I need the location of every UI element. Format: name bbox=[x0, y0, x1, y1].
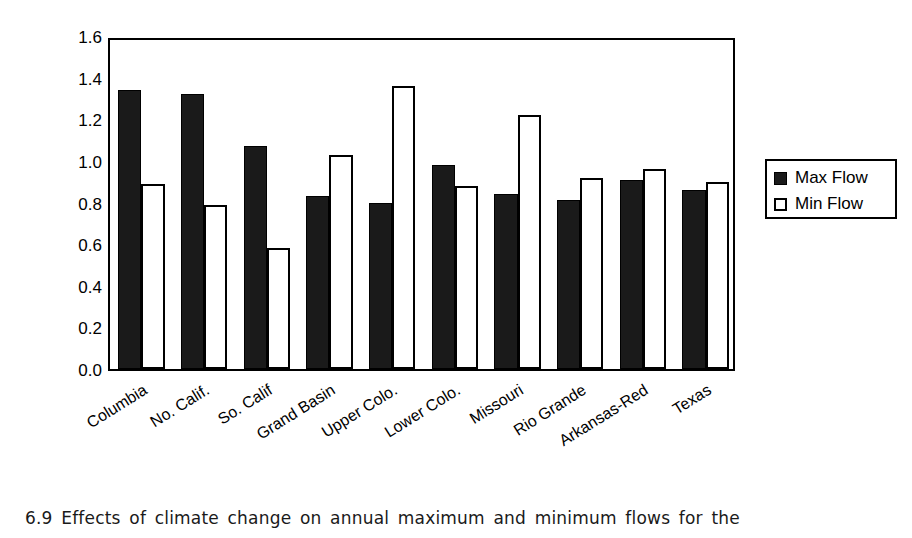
bar-min-flow[interactable] bbox=[643, 169, 666, 369]
bar-max-flow[interactable] bbox=[244, 146, 267, 369]
y-axis-tick-labels: 1.61.41.21.00.80.60.40.20.0 bbox=[48, 28, 102, 382]
bar-max-flow[interactable] bbox=[181, 94, 204, 369]
legend-entry-max-flow[interactable]: Max Flow bbox=[774, 165, 895, 191]
bar-max-flow[interactable] bbox=[682, 190, 705, 369]
bar-max-flow[interactable] bbox=[494, 194, 517, 369]
bar-group bbox=[173, 40, 236, 369]
bar-min-flow[interactable] bbox=[392, 86, 415, 369]
bar-group bbox=[298, 40, 361, 369]
y-tick-label: 1.2 bbox=[48, 111, 102, 131]
bar-min-flow[interactable] bbox=[455, 186, 478, 369]
bar-min-flow[interactable] bbox=[518, 115, 541, 369]
legend-label-max-flow: Max Flow bbox=[795, 169, 868, 187]
bars-layer bbox=[110, 40, 733, 369]
y-tick-label: 0.0 bbox=[48, 361, 102, 381]
bar-group bbox=[424, 40, 487, 369]
bar-max-flow[interactable] bbox=[557, 200, 580, 369]
bar-max-flow[interactable] bbox=[369, 203, 392, 370]
y-tick-label: 0.6 bbox=[48, 236, 102, 256]
plot-area bbox=[108, 38, 735, 371]
legend-entry-min-flow[interactable]: Min Flow bbox=[774, 191, 895, 217]
bar-max-flow[interactable] bbox=[432, 165, 455, 369]
figure-chart-6-9: GISS/Current 1.61.41.21.00.80.60.40.20.0… bbox=[0, 0, 912, 538]
bar-min-flow[interactable] bbox=[706, 182, 729, 369]
figure-caption: 6.9 Effects of climate change on annual … bbox=[25, 506, 890, 530]
bar-group bbox=[549, 40, 612, 369]
bar-min-flow[interactable] bbox=[580, 178, 603, 369]
y-tick-label: 1.6 bbox=[48, 28, 102, 48]
bar-group bbox=[612, 40, 675, 369]
y-tick-label: 1.4 bbox=[48, 70, 102, 90]
y-tick-label: 0.2 bbox=[48, 319, 102, 339]
bar-max-flow[interactable] bbox=[620, 180, 643, 369]
bar-group bbox=[110, 40, 173, 369]
y-tick-label: 0.4 bbox=[48, 278, 102, 298]
bar-max-flow[interactable] bbox=[306, 196, 329, 369]
hollow-square-icon bbox=[774, 198, 787, 211]
bar-max-flow[interactable] bbox=[118, 90, 141, 369]
bar-group bbox=[674, 40, 737, 369]
bar-min-flow[interactable] bbox=[267, 248, 290, 369]
bar-group bbox=[235, 40, 298, 369]
y-tick-label: 1.0 bbox=[48, 153, 102, 173]
bar-group bbox=[361, 40, 424, 369]
bar-min-flow[interactable] bbox=[204, 205, 227, 369]
y-tick-label: 0.8 bbox=[48, 195, 102, 215]
chart-legend: Max Flow Min Flow bbox=[765, 159, 897, 219]
legend-label-min-flow: Min Flow bbox=[795, 195, 863, 213]
bar-group bbox=[486, 40, 549, 369]
filled-square-icon bbox=[774, 172, 787, 185]
bar-min-flow[interactable] bbox=[329, 155, 352, 369]
bar-min-flow[interactable] bbox=[141, 184, 164, 369]
